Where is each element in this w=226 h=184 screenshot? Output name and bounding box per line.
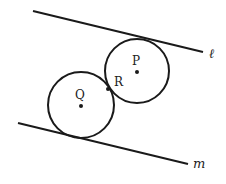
tangent-point-r (106, 87, 110, 91)
label-r: R (114, 75, 124, 89)
geometry-figure: P Q R ℓ m (0, 0, 226, 184)
label-q: Q (75, 88, 85, 102)
label-line-m: m (193, 156, 205, 171)
label-p: P (132, 54, 140, 68)
center-point-q (79, 104, 83, 108)
diagram-canvas: P Q R ℓ m (0, 0, 226, 184)
center-point-p (135, 70, 139, 74)
label-line-l: ℓ (209, 46, 215, 61)
